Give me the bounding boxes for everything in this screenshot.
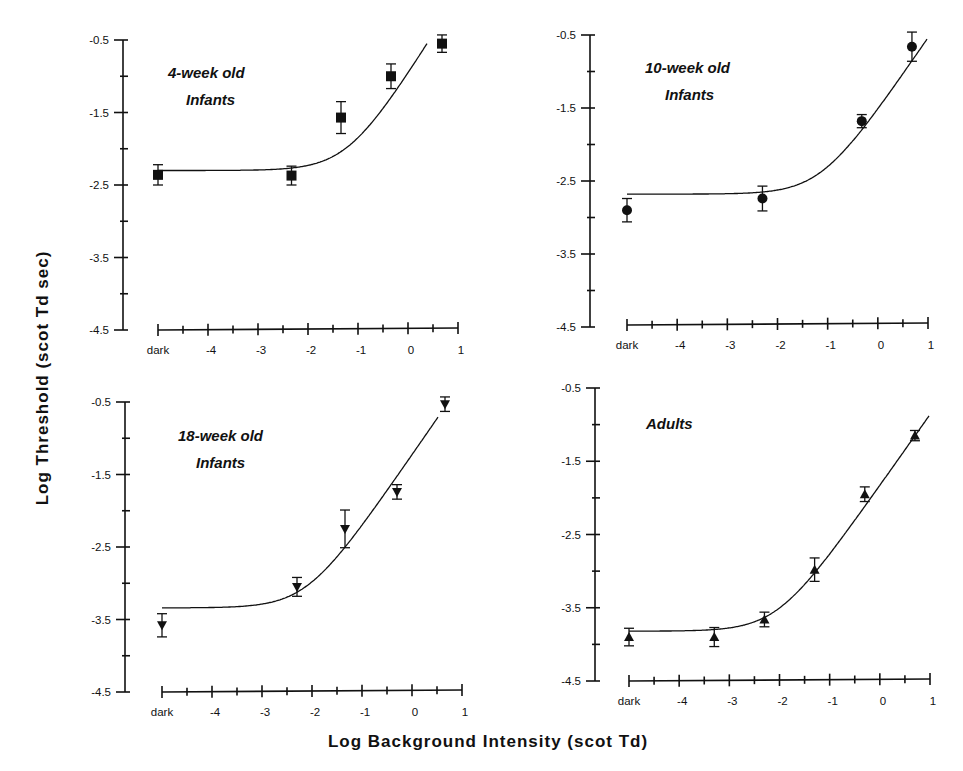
y-tick-label: -1.5: [89, 107, 109, 119]
panel-4-week-infants: -0.5-1.5-2.5-3.5-4.5dark-4-3-2-1014-week…: [89, 34, 464, 356]
triangle-down-marker-icon: [157, 621, 167, 630]
y-tick-label: -0.5: [89, 34, 109, 46]
x-tick-label: 0: [880, 695, 886, 707]
data-point: [157, 614, 167, 637]
x-axis-title: Log Background Intensity (scot Td): [328, 732, 648, 751]
square-marker-icon: [336, 113, 346, 123]
y-tick-label: -3.5: [91, 614, 111, 626]
x-tick-label: 0: [408, 344, 414, 356]
triangle-up-marker-icon: [860, 489, 870, 498]
y-tick-label: -2.5: [89, 179, 109, 191]
data-point: [153, 165, 163, 185]
circle-marker-icon: [757, 194, 767, 204]
y-tick-label: -4.5: [89, 324, 109, 336]
panel-label: Adults: [645, 415, 693, 432]
x-tick-label: -1: [826, 339, 836, 351]
x-tick-label: dark: [616, 339, 639, 351]
data-point: [910, 430, 920, 440]
panel-10-week-infants: -0.5-1.5-2.5-3.5-4.5dark-4-3-2-10110-wee…: [556, 29, 934, 351]
panel-label: 4-week old: [167, 64, 246, 81]
panel-label: Infants: [196, 454, 245, 471]
y-tick-label: -0.5: [556, 29, 576, 41]
data-point: [392, 485, 402, 500]
triangle-down-marker-icon: [440, 400, 450, 409]
x-tick-label: -2: [306, 344, 316, 356]
square-marker-icon: [153, 170, 163, 180]
panel-label: 10-week old: [645, 59, 731, 76]
y-tick-label: -2.5: [556, 175, 576, 187]
circle-marker-icon: [622, 205, 632, 215]
triangle-up-marker-icon: [624, 632, 634, 641]
y-tick-label: -2.5: [91, 541, 111, 553]
y-tick-label: -2.5: [561, 529, 581, 541]
data-point: [440, 397, 450, 412]
circle-marker-icon: [907, 42, 917, 52]
figure: -0.5-1.5-2.5-3.5-4.5dark-4-3-2-1014-week…: [0, 0, 963, 771]
data-point: [860, 487, 870, 502]
y-tick-label: -4.5: [556, 321, 576, 333]
data-point: [757, 186, 767, 211]
y-axis-title: Log Threshold (scot Td sec): [33, 251, 52, 506]
y-tick-label: -1.5: [91, 469, 111, 481]
circle-marker-icon: [857, 116, 867, 126]
y-tick-label: -4.5: [91, 686, 111, 698]
x-tick-label: dark: [618, 695, 641, 707]
x-tick-label: -3: [260, 706, 270, 718]
y-tick-label: -1.5: [556, 102, 576, 114]
x-tick-label: 0: [878, 339, 884, 351]
x-tick-label: -3: [256, 344, 266, 356]
data-point: [336, 102, 346, 134]
fit-curve: [162, 417, 438, 608]
triangle-down-marker-icon: [340, 525, 350, 534]
y-tick-label: -4.5: [561, 675, 581, 687]
triangle-up-marker-icon: [709, 632, 719, 641]
x-tick-label: -3: [727, 695, 737, 707]
x-tick-label: -4: [206, 344, 217, 356]
x-tick-label: -4: [210, 706, 221, 718]
x-tick-label: -1: [828, 695, 838, 707]
x-tick-label: -2: [777, 695, 787, 707]
panel-adults: -0.5-1.5-2.5-3.5-4.5dark-4-3-2-101Adults: [561, 382, 936, 707]
x-tick-label: dark: [151, 706, 174, 718]
x-tick-label: -2: [775, 339, 785, 351]
data-point: [386, 64, 396, 89]
x-tick-label: -4: [675, 339, 686, 351]
x-tick-label: dark: [147, 344, 170, 356]
y-tick-label: -3.5: [89, 252, 109, 264]
triangle-down-marker-icon: [392, 488, 402, 497]
x-tick-label: -2: [310, 706, 320, 718]
x-tick-label: -4: [677, 695, 688, 707]
fit-curve: [629, 416, 929, 631]
panel-label: Infants: [665, 86, 714, 103]
square-marker-icon: [386, 71, 396, 81]
square-marker-icon: [287, 171, 297, 181]
panel-label: Infants: [186, 91, 235, 108]
y-tick-label: -0.5: [561, 382, 581, 394]
x-tick-label: 1: [928, 339, 934, 351]
y-tick-label: -1.5: [561, 455, 581, 467]
panel-18-week-infants: -0.5-1.5-2.5-3.5-4.5dark-4-3-2-10118-wee…: [91, 396, 468, 718]
y-tick-label: -3.5: [556, 248, 576, 260]
x-tick-label: -3: [725, 339, 735, 351]
x-tick-label: -1: [360, 706, 370, 718]
data-point: [437, 35, 447, 52]
data-point: [622, 199, 632, 222]
x-tick-label: 1: [930, 695, 936, 707]
panel-label: 18-week old: [178, 427, 264, 444]
x-tick-label: -1: [356, 344, 366, 356]
x-tick-label: 1: [458, 344, 464, 356]
x-tick-label: 0: [412, 706, 418, 718]
y-tick-label: -3.5: [561, 602, 581, 614]
x-tick-label: 1: [462, 706, 468, 718]
square-marker-icon: [437, 39, 447, 49]
y-tick-label: -0.5: [91, 396, 111, 408]
